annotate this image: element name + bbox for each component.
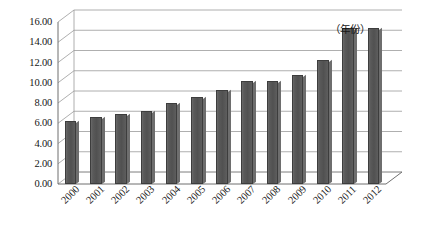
bar-side-face: [76, 121, 79, 184]
bar-side-face: [228, 89, 231, 184]
bar-front-face: [90, 117, 102, 184]
x-axis: 2000200120022003200420052006200720082009…: [52, 190, 429, 236]
bar-front-face: [115, 114, 127, 184]
y-tick-label: 16.00: [0, 17, 52, 27]
bars-layer: [52, 8, 412, 190]
y-axis: 16.0014.0012.0010.008.006.004.002.000.00: [0, 0, 52, 236]
bar-2009: [292, 75, 304, 184]
bar-side-face: [303, 74, 306, 184]
bar-2008: [267, 81, 279, 184]
bar-2006: [216, 90, 228, 184]
bar-front-face: [317, 60, 329, 184]
bar-side-face: [177, 103, 180, 184]
bar-side-face: [203, 97, 206, 184]
bar-side-face: [278, 80, 281, 184]
y-tick-label: 12.00: [0, 58, 52, 68]
bar-front-face: [368, 28, 380, 184]
y-tick-label: 6.00: [0, 118, 52, 128]
bar-front-face: [216, 90, 228, 184]
bar-side-face: [379, 28, 382, 184]
bar-front-face: [292, 75, 304, 184]
bar-2001: [90, 117, 102, 184]
plot-area: [52, 8, 412, 190]
bar-front-face: [141, 111, 153, 184]
x-axis-title: （年份）: [330, 24, 370, 35]
y-tick-label: 2.00: [0, 159, 52, 169]
bar-front-face: [65, 121, 77, 184]
bar-2012: [368, 28, 380, 184]
bar-front-face: [267, 81, 279, 184]
bar-2010: [317, 60, 329, 184]
bar-side-face: [253, 80, 256, 184]
bar-2011: [342, 28, 354, 184]
y-tick-label: 14.00: [0, 37, 52, 47]
bar-side-face: [329, 60, 332, 184]
y-tick-label: 4.00: [0, 139, 52, 149]
bar-2004: [166, 103, 178, 184]
bar-front-face: [191, 97, 203, 184]
y-tick-label: 0.00: [0, 179, 52, 189]
bar-side-face: [354, 28, 357, 184]
bar-front-face: [241, 81, 253, 184]
bar-2000: [65, 121, 77, 184]
bar-side-face: [152, 111, 155, 184]
y-tick-label: 10.00: [0, 78, 52, 88]
bar-front-face: [166, 103, 178, 184]
bar-side-face: [127, 114, 130, 184]
bar-chart: 16.0014.0012.0010.008.006.004.002.000.00…: [0, 0, 429, 236]
y-tick-label: 8.00: [0, 98, 52, 108]
bar-2005: [191, 97, 203, 184]
bar-front-face: [342, 28, 354, 184]
bar-2003: [141, 111, 153, 184]
bar-2007: [241, 81, 253, 184]
bar-2002: [115, 114, 127, 184]
bar-side-face: [102, 117, 105, 184]
